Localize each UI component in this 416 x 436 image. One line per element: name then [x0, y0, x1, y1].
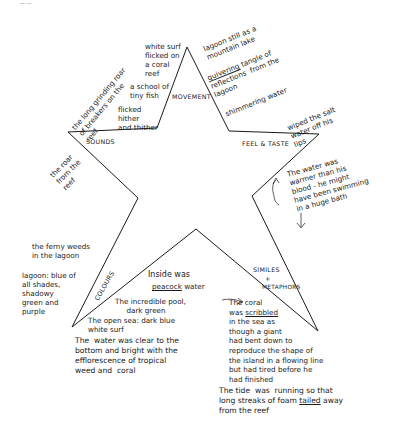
note-peacock: peacock water	[152, 282, 205, 291]
bracket-icon	[273, 180, 279, 205]
category-similes-1: SIMILES	[253, 266, 280, 273]
category-similes-3: METAPHORS	[262, 284, 301, 290]
note-incredible-pool: The incredible pool, dark green	[115, 297, 186, 315]
category-similes-2: +	[265, 275, 271, 282]
down-arrow-icon	[297, 213, 305, 228]
note-tide: The tide was running so that long streak…	[219, 386, 343, 416]
coral-line1: The coral	[229, 298, 262, 307]
note-flicked: flicked hither and thither	[118, 105, 158, 132]
coral-rest: in the sea as though a giant had bent do…	[229, 317, 323, 384]
star-diagram	[0, 0, 416, 436]
category-feel-taste: FEEL & TASTE	[242, 140, 289, 147]
tide-line2a: long streaks of foam	[219, 396, 299, 405]
tide-line3: from the reef	[219, 406, 269, 415]
note-inside-was: Inside was	[148, 270, 190, 279]
peacock-rest: water	[182, 282, 205, 291]
note-ferny-weeds: the ferny weeds in the lagoon	[32, 242, 90, 260]
category-movement: MOVEMENT	[172, 93, 211, 100]
scribbled-word: scribbled	[245, 308, 278, 317]
peacock-word: peacock	[152, 282, 182, 291]
note-coral: The coral was scribbled in the sea as th…	[229, 298, 323, 384]
tide-line1: The tide was running so that	[219, 386, 333, 395]
note-open-sea: The open sea: dark blue white surf	[88, 316, 175, 334]
note-lagoon-blue: lagoon: blue of all shades, shadowy gree…	[22, 271, 76, 316]
tide-line2b: away	[321, 396, 343, 405]
note-white-surf: white surf flicked on a coral reef	[145, 42, 181, 78]
coral-was: was	[229, 308, 245, 317]
note-water-clear: The water was clear to the bottom and br…	[75, 336, 179, 376]
tailed-word: tailed	[299, 396, 320, 405]
